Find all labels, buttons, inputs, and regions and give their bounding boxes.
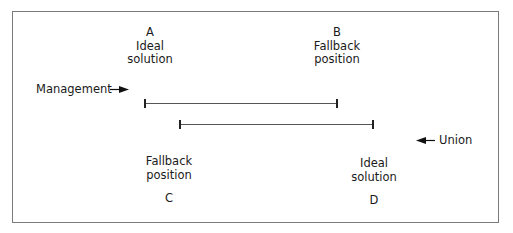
- point-a-label: A Ideal solution: [118, 26, 182, 67]
- point-b-line2: position: [303, 53, 371, 67]
- point-b-letter: B: [303, 26, 371, 40]
- point-d-line1: Ideal: [342, 157, 406, 171]
- diagram-frame: [12, 11, 499, 223]
- point-a-line2: solution: [118, 53, 182, 67]
- tick-c: [179, 120, 181, 129]
- arrow-left-icon: [415, 136, 435, 145]
- tick-a: [144, 99, 146, 108]
- point-b-line1: Fallback: [303, 40, 371, 54]
- union-range-line: [180, 124, 373, 125]
- point-c-label: Fallback position C: [137, 155, 201, 206]
- point-c-line2: position: [137, 169, 201, 183]
- management-range-line: [145, 103, 337, 104]
- tick-b: [336, 99, 338, 108]
- management-label: Management: [36, 82, 112, 96]
- point-d-line2: solution: [342, 171, 406, 185]
- tick-d: [372, 120, 374, 129]
- arrow-right-icon: [110, 85, 130, 94]
- point-b-label: B Fallback position: [303, 26, 371, 67]
- point-c-line1: Fallback: [137, 155, 201, 169]
- point-a-letter: A: [118, 26, 182, 40]
- point-a-line1: Ideal: [118, 40, 182, 54]
- point-c-letter: C: [137, 192, 201, 206]
- point-d-label: Ideal solution D: [342, 157, 406, 208]
- union-label: Union: [439, 133, 472, 147]
- point-d-letter: D: [342, 194, 406, 208]
